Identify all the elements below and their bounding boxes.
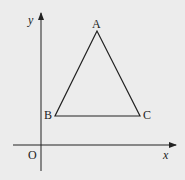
vertex-a-label: A xyxy=(92,17,101,31)
vertex-c-label: C xyxy=(143,108,151,122)
origin-label: O xyxy=(28,148,37,162)
vertex-b-label: B xyxy=(44,108,52,122)
coordinate-diagram: y x O A B C xyxy=(0,0,185,180)
y-axis-label: y xyxy=(27,13,34,27)
x-axis-label: x xyxy=(162,148,169,162)
triangle-abc xyxy=(55,31,140,116)
